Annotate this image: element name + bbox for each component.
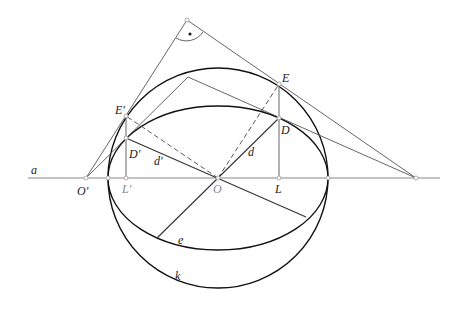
label-d-prime: d′ [154, 154, 163, 168]
label-d: d [248, 145, 255, 159]
point-L-prime [124, 176, 128, 180]
label-L-prime: L′ [121, 182, 132, 196]
point-circle-left [106, 176, 110, 180]
label-E: E [281, 71, 290, 85]
label-ellipse-e: e [178, 233, 184, 247]
label-D: D [280, 123, 290, 137]
label-O: O [213, 182, 222, 196]
label-axis-a: a [31, 163, 37, 177]
geometry-diagram: a O′ L′ O L E′ D′ E D d′ d e k [0, 0, 472, 309]
tangent-line-right-outer [187, 20, 416, 178]
dashed-O-E [218, 84, 279, 178]
label-O-prime: O′ [77, 184, 89, 198]
right-angle-dot [189, 33, 192, 36]
label-circle-k: k [175, 269, 181, 283]
point-D-prime [124, 136, 128, 140]
point-D [277, 116, 281, 120]
point-O [216, 176, 220, 180]
point-L [277, 176, 281, 180]
point-circle-right [326, 176, 330, 180]
tangent-line-left-inner [86, 77, 188, 178]
label-D-prime: D′ [128, 147, 141, 161]
tangent-line-right-inner [188, 77, 416, 178]
point-apex [185, 18, 189, 22]
label-E-prime: E′ [114, 103, 125, 117]
label-L: L [274, 182, 282, 196]
point-far-right [414, 176, 418, 180]
point-O-prime [84, 176, 88, 180]
point-E [277, 82, 281, 86]
